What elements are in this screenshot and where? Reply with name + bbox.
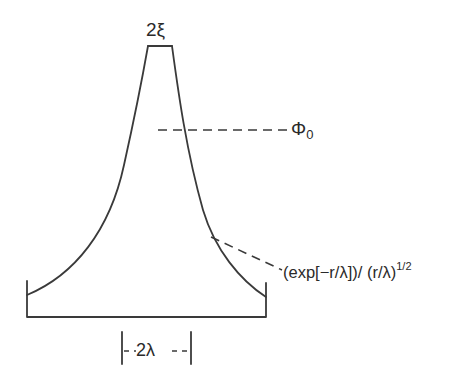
flux-symbol: Φ (291, 118, 306, 139)
base-bracket (27, 281, 266, 317)
core-width-label: 2ξ (146, 20, 165, 39)
penetration-width-label: 2λ (136, 341, 155, 359)
formula-leader-line (211, 237, 282, 270)
decay-formula-label: (exp[−r/λ])/ (r/λ)1/2 (283, 261, 412, 281)
profile-curve-left (27, 46, 148, 295)
vortex-diagram (0, 0, 470, 379)
decay-formula-exponent: 1/2 (396, 260, 411, 272)
decay-formula-body: (exp[−r/λ])/ (r/λ) (283, 263, 396, 281)
flux-subscript: 0 (306, 127, 313, 142)
flux-label: Φ0 (291, 119, 313, 141)
profile-curve-right (172, 46, 266, 297)
